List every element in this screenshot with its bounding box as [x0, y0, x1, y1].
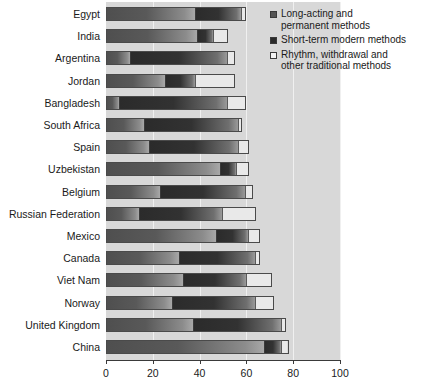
axis-tick-0	[106, 360, 107, 364]
bar-segment-1	[107, 52, 130, 64]
bar-segment-3	[255, 297, 273, 309]
bar-segment-1	[107, 8, 195, 20]
axis-tick-label: 0	[103, 367, 109, 379]
stacked-bar	[106, 340, 289, 354]
bar-segment-1	[107, 341, 264, 353]
bar-segment-2	[197, 30, 213, 42]
bar-row: Canada	[0, 247, 422, 269]
bar-row: United Kingdom	[0, 314, 422, 336]
bar-segment-2	[195, 8, 241, 20]
category-label: United Kingdom	[0, 314, 100, 336]
bar-segment-2	[160, 186, 245, 198]
bar-row: China	[0, 336, 422, 358]
legend-swatch-icon	[270, 11, 277, 18]
bar-segment-2	[193, 319, 281, 331]
chart-legend: Long-acting and permanent methodsShort-t…	[270, 8, 420, 75]
bar-segment-2	[119, 97, 227, 109]
axis-tick-40	[200, 360, 201, 364]
bar-segment-2	[264, 341, 280, 353]
bar-segment-1	[107, 319, 193, 331]
stacked-bar-chart: EgyptIndiaArgentinaJordanBangladeshSouth…	[0, 0, 422, 388]
legend-label: Long-acting and permanent methods	[281, 8, 370, 31]
bar-segment-3	[213, 30, 227, 42]
bar-segment-2	[144, 119, 239, 131]
bar-segment-2	[149, 141, 239, 153]
bar-segment-1	[107, 97, 119, 109]
category-label: Canada	[0, 247, 100, 269]
stacked-bar	[106, 318, 286, 332]
axis-tick-100	[340, 360, 341, 364]
category-label: Belgium	[0, 181, 100, 203]
axis-tick-60	[246, 360, 247, 364]
bar-row: South Africa	[0, 114, 422, 136]
category-label: Argentina	[0, 47, 100, 69]
axis-tick-80	[293, 360, 294, 364]
bar-segment-1	[107, 141, 149, 153]
axis-tick-label: 80	[287, 367, 299, 379]
bar-segment-2	[179, 252, 255, 264]
bar-segment-3	[281, 319, 286, 331]
legend-item[interactable]: Long-acting and permanent methods	[270, 8, 420, 31]
axis-tick-label: 40	[194, 367, 206, 379]
bar-segment-1	[107, 30, 197, 42]
stacked-bar	[106, 7, 246, 21]
category-label: Mexico	[0, 225, 100, 247]
bar-segment-3	[255, 252, 260, 264]
x-axis: 020406080100	[106, 360, 340, 388]
stacked-bar	[106, 29, 228, 43]
bar-segment-1	[107, 208, 139, 220]
stacked-bar	[106, 96, 246, 110]
bar-segment-3	[241, 8, 246, 20]
stacked-bar	[106, 207, 256, 221]
bar-segment-1	[107, 119, 144, 131]
bar-segment-2	[172, 297, 255, 309]
bar-segment-1	[107, 274, 183, 286]
bar-segment-1	[107, 252, 179, 264]
bar-segment-3	[195, 75, 234, 87]
category-label: South Africa	[0, 114, 100, 136]
legend-label: Short-term modern methods	[281, 34, 406, 46]
legend-swatch-icon	[270, 37, 277, 44]
bar-segment-2	[220, 163, 236, 175]
category-label: Egypt	[0, 3, 100, 25]
legend-item[interactable]: Short-term modern methods	[270, 34, 420, 46]
axis-line	[106, 360, 340, 361]
stacked-bar	[106, 185, 253, 199]
axis-tick-label: 20	[147, 367, 159, 379]
bar-segment-3	[246, 274, 271, 286]
bar-segment-2	[183, 274, 245, 286]
bar-segment-3	[227, 97, 245, 109]
stacked-bar	[106, 162, 249, 176]
bar-row: Belgium	[0, 181, 422, 203]
category-label: India	[0, 25, 100, 47]
bar-row: Uzbekistan	[0, 158, 422, 180]
stacked-bar	[106, 140, 249, 154]
stacked-bar	[106, 251, 260, 265]
bar-segment-3	[238, 141, 247, 153]
bar-segment-3	[236, 163, 248, 175]
stacked-bar	[106, 229, 260, 243]
bar-row: Russian Federation	[0, 203, 422, 225]
bar-segment-2	[216, 230, 248, 242]
bar-row: Norway	[0, 292, 422, 314]
legend-item[interactable]: Rhythm, withdrawal and other traditional…	[270, 49, 420, 72]
axis-tick-label: 100	[331, 367, 349, 379]
bar-row: Bangladesh	[0, 92, 422, 114]
bar-segment-1	[107, 75, 165, 87]
bar-segment-3	[245, 186, 252, 198]
category-label: Uzbekistan	[0, 158, 100, 180]
bar-segment-3	[222, 208, 254, 220]
bar-segment-2	[139, 208, 222, 220]
bar-row: Spain	[0, 136, 422, 158]
bar-segment-1	[107, 163, 220, 175]
stacked-bar	[106, 74, 235, 88]
bar-segment-3	[238, 119, 240, 131]
bar-segment-3	[248, 230, 260, 242]
legend-swatch-icon	[270, 52, 277, 59]
category-label: Viet Nam	[0, 269, 100, 291]
bar-row: Mexico	[0, 225, 422, 247]
bar-segment-1	[107, 297, 172, 309]
axis-tick-label: 60	[241, 367, 253, 379]
bar-segment-2	[130, 52, 227, 64]
legend-label: Rhythm, withdrawal and other traditional…	[281, 49, 391, 72]
